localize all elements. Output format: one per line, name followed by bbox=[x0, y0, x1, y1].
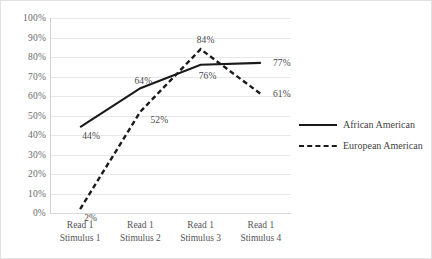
legend-key-icon bbox=[297, 141, 339, 151]
data-label: 84% bbox=[197, 35, 215, 45]
data-label: 61% bbox=[273, 89, 291, 99]
data-label: 64% bbox=[134, 76, 152, 86]
x-tick-line-1: Read 1 bbox=[219, 219, 303, 232]
series-line-2 bbox=[80, 49, 261, 209]
data-label: 44% bbox=[82, 131, 100, 141]
data-label: 77% bbox=[273, 58, 291, 68]
legend-label: European American bbox=[339, 140, 423, 151]
data-label: 52% bbox=[150, 115, 168, 125]
legend-item-2[interactable]: European American bbox=[297, 135, 427, 156]
legend-label: African American bbox=[339, 119, 415, 130]
legend-item-1[interactable]: African American bbox=[297, 114, 427, 135]
legend: African AmericanEuropean American bbox=[297, 114, 427, 156]
x-tick-label: Read 1Stimulus 4 bbox=[219, 219, 303, 245]
x-axis-labels: Read 1Stimulus 1Read 1Stimulus 2Read 1St… bbox=[50, 219, 291, 253]
x-tick-line-2: Stimulus 4 bbox=[219, 232, 303, 245]
data-label: 76% bbox=[199, 71, 217, 81]
legend-key-icon bbox=[297, 120, 339, 130]
line-chart: 100%90%80%70%60%50%40%30%20%10%0% 44%64%… bbox=[0, 0, 432, 259]
